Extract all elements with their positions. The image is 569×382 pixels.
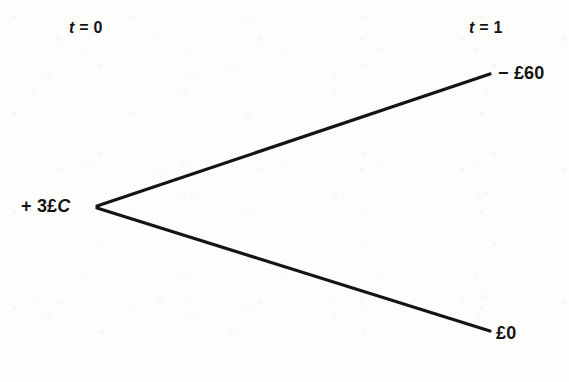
time-label-t0-value: 0 (93, 19, 102, 36)
node-label-root-prefix: + 3£ (21, 196, 57, 216)
tree-branches (0, 0, 569, 382)
node-label-down-state: £0 (496, 324, 516, 342)
time-label-t1-eq: = (475, 19, 494, 36)
node-label-up-state: − £60 (498, 64, 545, 82)
binomial-tree-figure: t = 0 t = 1 + 3£C − £60 £0 (0, 0, 569, 382)
time-label-t0: t = 0 (69, 20, 102, 36)
time-label-t1: t = 1 (469, 20, 502, 36)
node-label-root-symbol: C (57, 196, 70, 216)
node-label-root: + 3£C (21, 197, 71, 215)
branch-up-line (97, 74, 490, 206)
time-label-t0-eq: = (75, 19, 94, 36)
branch-down-line (97, 208, 490, 331)
time-label-t1-value: 1 (493, 19, 502, 36)
